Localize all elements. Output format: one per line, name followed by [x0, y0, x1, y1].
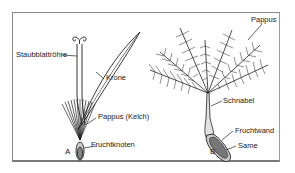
- label-pappus: Pappus: [251, 16, 276, 24]
- label-fruchtwand: Fruchtwand: [235, 127, 274, 135]
- panel-label-b: B: [210, 148, 215, 156]
- label-krone: Krone: [106, 74, 126, 82]
- label-same: Same: [238, 142, 258, 150]
- label-staubblattroehre: Staubblattröhre: [16, 51, 67, 59]
- label-schnabel: Schnabel: [223, 97, 254, 105]
- label-pappus-kelch: Pappus (Kelch): [98, 113, 149, 121]
- label-fruchtknoten: Fruchtknoten: [91, 141, 135, 149]
- panel-label-a: A: [65, 148, 70, 156]
